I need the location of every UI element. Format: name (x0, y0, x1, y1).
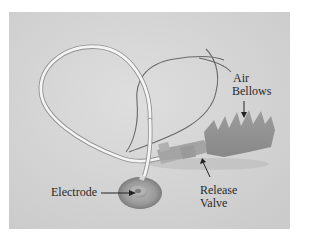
electrode-arrow-icon (101, 188, 137, 198)
label-release-valve-line2: Valve (200, 197, 237, 210)
air-bellows-arrow-icon (240, 101, 248, 119)
label-release-valve: Release Valve (200, 184, 237, 210)
label-air-bellows-line2: Bellows (232, 85, 271, 98)
label-air-bellows: Air Bellows (232, 72, 271, 98)
label-electrode: Electrode (51, 186, 97, 199)
release-valve-arrow-icon (200, 158, 212, 178)
